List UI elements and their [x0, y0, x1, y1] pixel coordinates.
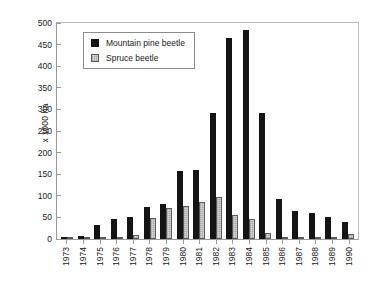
x-axis-tick-1986: 1986 [274, 240, 291, 283]
bar-spruce-beetle-1988 [315, 237, 321, 239]
x-axis-tick-1982: 1982 [207, 240, 224, 283]
x-axis-tick-1975: 1975 [91, 240, 108, 283]
y-axis-tick-50: 50 [43, 212, 57, 222]
bar-spruce-beetle-1983 [232, 215, 238, 239]
bar-spruce-beetle-1987 [298, 237, 304, 239]
chart-legend: Mountain pine beetle Spruce beetle [83, 32, 195, 69]
x-axis-tick-1984: 1984 [241, 240, 258, 283]
bar-group [340, 23, 357, 239]
x-axis-label: 1974 [78, 247, 88, 266]
bar-mountain-pine-beetle-1989 [325, 217, 331, 239]
bar-group [241, 23, 258, 239]
bar-spruce-beetle-1980 [183, 206, 189, 239]
x-axis-tick-1977: 1977 [124, 240, 141, 283]
x-tick-mark [299, 240, 300, 244]
x-axis-label: 1976 [111, 247, 121, 266]
bar-spruce-beetle-1976 [117, 237, 123, 239]
bar-spruce-beetle-1985 [265, 233, 271, 239]
x-tick-mark [349, 240, 350, 244]
x-axis-label: 1980 [178, 247, 188, 266]
x-tick-mark [183, 240, 184, 244]
bar-spruce-beetle-1979 [166, 208, 172, 239]
legend-item-mountain-pine-beetle: Mountain pine beetle [91, 38, 185, 48]
x-tick-mark [100, 240, 101, 244]
x-axis-label: 1989 [327, 247, 337, 266]
x-tick-mark [332, 240, 333, 244]
x-axis-label: 1990 [344, 247, 354, 266]
x-tick-mark [249, 240, 250, 244]
beetle-infestation-bar-chart: x 1000 ha 050100150200250300350400450500… [0, 0, 372, 283]
bar-spruce-beetle-1989 [331, 237, 337, 239]
bar-spruce-beetle-1974 [84, 237, 90, 239]
y-axis-tick-350: 350 [38, 83, 57, 93]
x-tick-mark [232, 240, 233, 244]
bar-group [274, 23, 291, 239]
y-axis-tick-200: 200 [38, 148, 57, 158]
x-tick-mark [199, 240, 200, 244]
x-axis-tick-1987: 1987 [291, 240, 308, 283]
y-axis-tick-450: 450 [38, 40, 57, 50]
x-tick-mark [149, 240, 150, 244]
bar-group [257, 23, 274, 239]
x-tick-mark [266, 240, 267, 244]
bar-spruce-beetle-1977 [133, 235, 139, 239]
bar-mountain-pine-beetle-1984 [243, 30, 249, 239]
x-axis-label: 1988 [310, 247, 320, 266]
bar-mountain-pine-beetle-1988 [309, 213, 315, 239]
x-axis-label: 1984 [244, 247, 254, 266]
bar-spruce-beetle-1975 [100, 237, 106, 239]
y-axis-tick-150: 150 [38, 169, 57, 179]
y-axis-tick-500: 500 [38, 18, 57, 28]
y-axis-tick-100: 100 [38, 191, 57, 201]
bar-group [290, 23, 307, 239]
x-tick-mark [133, 240, 134, 244]
x-axis-label: 1986 [277, 247, 287, 266]
x-tick-mark [166, 240, 167, 244]
bar-mountain-pine-beetle-1983 [226, 38, 232, 239]
x-axis-tick-1978: 1978 [141, 240, 158, 283]
x-axis-label: 1979 [161, 247, 171, 266]
x-axis-label: 1987 [294, 247, 304, 266]
x-axis-label: 1981 [194, 247, 204, 266]
bar-mountain-pine-beetle-1987 [292, 211, 298, 239]
x-axis-label: 1975 [95, 247, 105, 266]
x-axis-label: 1973 [61, 247, 71, 266]
x-axis-label: 1977 [128, 247, 138, 266]
x-axis-tick-1989: 1989 [324, 240, 341, 283]
x-axis-label: 1983 [227, 247, 237, 266]
bar-spruce-beetle-1981 [199, 202, 205, 239]
x-axis-tick-1985: 1985 [257, 240, 274, 283]
y-axis-tick-300: 300 [38, 104, 57, 114]
x-axis-tick-1979: 1979 [158, 240, 175, 283]
x-tick-mark [66, 240, 67, 244]
bar-mountain-pine-beetle-1985 [259, 113, 265, 239]
x-tick-mark [216, 240, 217, 244]
bar-group [59, 23, 76, 239]
x-tick-mark [282, 240, 283, 244]
bar-mountain-pine-beetle-1986 [276, 199, 282, 239]
bar-spruce-beetle-1990 [348, 234, 354, 239]
x-axis-tick-1988: 1988 [307, 240, 324, 283]
legend-label-spruce-beetle: Spruce beetle [106, 53, 158, 63]
x-axis-label: 1978 [144, 247, 154, 266]
bar-group [307, 23, 324, 239]
x-axis-tick-1981: 1981 [191, 240, 208, 283]
x-axis-tick-1974: 1974 [75, 240, 92, 283]
legend-item-spruce-beetle: Spruce beetle [91, 53, 185, 63]
bar-spruce-beetle-1982 [216, 197, 222, 239]
x-axis-tick-1976: 1976 [108, 240, 125, 283]
bar-group [224, 23, 241, 239]
legend-label-mountain-pine-beetle: Mountain pine beetle [106, 38, 185, 48]
x-axis-tick-1983: 1983 [224, 240, 241, 283]
bar-spruce-beetle-1973 [67, 237, 73, 239]
x-axis-label: 1982 [211, 247, 221, 266]
x-axis-tick-1973: 1973 [58, 240, 75, 283]
x-axis-label: 1985 [261, 247, 271, 266]
x-tick-mark [83, 240, 84, 244]
y-axis-tick-250: 250 [38, 126, 57, 136]
legend-swatch-mountain-pine-beetle [91, 39, 99, 47]
bar-spruce-beetle-1978 [150, 218, 156, 239]
x-axis-tick-1990: 1990 [340, 240, 357, 283]
bar-group [323, 23, 340, 239]
bar-spruce-beetle-1984 [249, 219, 255, 239]
